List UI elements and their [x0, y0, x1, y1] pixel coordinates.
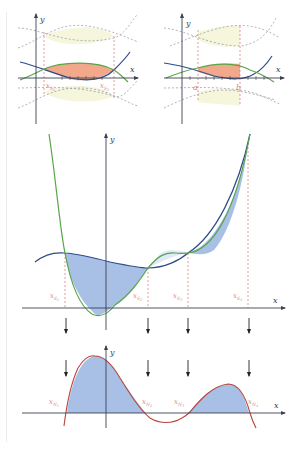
- y-axis-label: y: [39, 15, 45, 24]
- point-label-xs3: xS3: [173, 292, 183, 302]
- point-label-xn3: xN3: [174, 398, 185, 408]
- diagram-canvas: y x xS1 xS2 y x a b: [0, 0, 300, 457]
- transition-arrows: [66, 318, 249, 333]
- x-axis-label: x: [276, 65, 281, 74]
- x-axis-label: x: [130, 65, 135, 74]
- y-axis-label: y: [109, 348, 115, 357]
- area-region-1: [65, 253, 148, 315]
- x-axis-label: x: [274, 401, 279, 410]
- point-label-xs4: xS4: [233, 292, 242, 302]
- area-region-3: [188, 143, 248, 254]
- point-label-xn1: xN1: [49, 398, 59, 408]
- point-label-xs2: xS2: [133, 292, 143, 302]
- point-label-xn2: xN2: [142, 398, 153, 408]
- panel-top-left: y x xS1 xS2: [18, 14, 138, 124]
- y-axis-label: y: [185, 19, 191, 28]
- panel-middle: y x xS1 xS2 xS3 xS4: [22, 134, 285, 330]
- positive-area-1: [67, 356, 146, 413]
- x-axis-label: x: [273, 296, 278, 305]
- panel-top-right: y x a b: [164, 14, 284, 124]
- point-label-b: b: [236, 83, 241, 92]
- blue-curve: [35, 134, 250, 268]
- positive-area-2: [188, 384, 249, 413]
- point-label-xs1: xS1: [46, 82, 55, 92]
- y-axis-label: y: [109, 135, 115, 144]
- lower-band-fill: [198, 89, 240, 106]
- point-label-a: a: [193, 83, 198, 92]
- point-label-xs1: xS1: [50, 292, 59, 302]
- point-label-xn4: xN4: [248, 398, 258, 408]
- panel-bottom: y x xN1 xN2 xN3 xN4: [22, 346, 285, 428]
